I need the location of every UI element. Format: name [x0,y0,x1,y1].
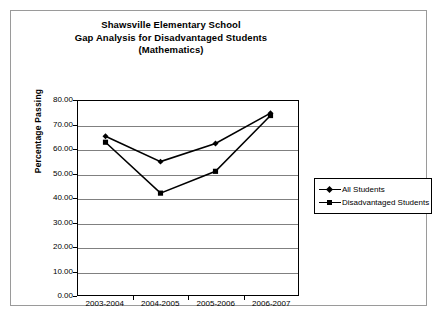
series-plot [78,101,298,295]
plot-area [77,100,299,296]
x-axis-tick-labels: 2003-20042004-20052005-20062006-2007 [77,299,299,313]
legend-item-label: All Students [342,185,385,194]
legend-item-1[interactable]: All Students [318,183,427,196]
square-marker-icon [318,197,342,208]
square-marker [268,113,273,118]
diamond-marker [213,140,219,146]
y-axis-tick-label: 20.00 [29,243,73,251]
x-axis-tick-label: 2003-2004 [77,299,133,308]
chart-title-line-3: (Mathematics) [11,44,331,57]
y-axis-tick-label: 0.00 [29,292,73,300]
chart-title: Shawsville Elementary School Gap Analysi… [11,19,331,57]
y-axis-tick-label: 50.00 [29,170,73,178]
y-axis-tick-label: 70.00 [29,121,73,129]
x-axis-tick-label: 2005-2006 [188,299,244,308]
y-axis-tick-label: 60.00 [29,145,73,153]
square-marker [213,169,218,174]
screenshot-canvas: Shawsville Elementary School Gap Analysi… [0,0,438,322]
legend-item-2[interactable]: Disadvantaged Students [318,196,427,209]
chart-frame: Shawsville Elementary School Gap Analysi… [10,10,427,306]
y-axis-tick-label: 30.00 [29,219,73,227]
diamond-marker [158,159,164,165]
square-marker [158,191,163,196]
y-axis-tick-label: 40.00 [29,194,73,202]
square-marker [103,140,108,145]
y-axis-tick-label: 80.00 [29,96,73,104]
chart-legend[interactable]: All StudentsDisadvantaged Students [314,178,432,214]
chart-title-line-2: Gap Analysis for Disadvantaged Students [11,32,331,45]
x-axis-tick-label: 2006-2007 [243,299,299,308]
chart-title-line-1: Shawsville Elementary School [11,19,331,32]
diamond-marker [103,133,109,139]
y-axis-tick-labels: 80.0070.0060.0050.0040.0030.0020.0010.00… [25,100,73,296]
diamond-marker-icon [318,184,342,195]
legend-item-label: Disadvantaged Students [342,198,429,207]
y-axis-tick-label: 10.00 [29,268,73,276]
y-axis-tick-mark [73,296,77,297]
series-line-1 [106,113,271,162]
x-axis-tick-label: 2004-2005 [132,299,188,308]
